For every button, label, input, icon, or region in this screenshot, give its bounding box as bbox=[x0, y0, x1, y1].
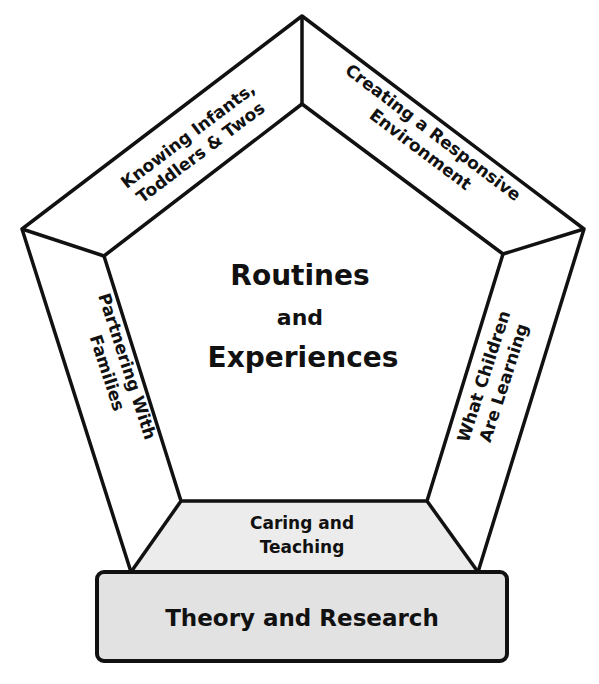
center-title-line2: and bbox=[277, 305, 323, 330]
connector-left bbox=[22, 229, 104, 256]
label-caring-line1: Caring and bbox=[250, 513, 354, 533]
base-label: Theory and Research bbox=[165, 605, 439, 631]
connector-right bbox=[503, 229, 584, 254]
framework-diagram: Knowing Infants, Toddlers & Twos Creatin… bbox=[0, 0, 599, 684]
label-caring-line2: Teaching bbox=[260, 537, 345, 557]
label-partnering-families: Partnering With Families bbox=[74, 291, 160, 449]
center-title-line3: Experiences bbox=[208, 341, 399, 374]
label-creating-line1: Creating a Responsive bbox=[341, 60, 524, 205]
center-title-line1: Routines bbox=[230, 259, 369, 292]
